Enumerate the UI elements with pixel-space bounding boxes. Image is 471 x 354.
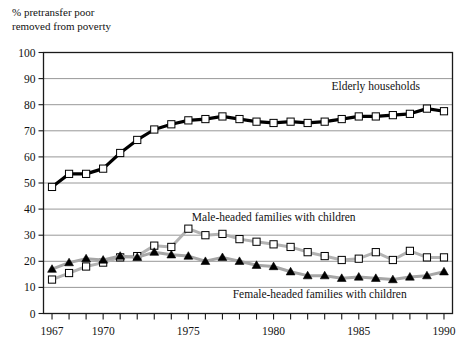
x-tick-label: 1975 (177, 325, 200, 337)
data-point-marker (219, 113, 226, 120)
data-point-marker (83, 170, 90, 177)
data-point-marker (202, 232, 209, 239)
y-tick-label: 10 (24, 281, 36, 293)
data-point-marker (338, 115, 345, 122)
data-point-marker (65, 269, 72, 276)
series-line (52, 229, 444, 280)
data-point-marker (372, 113, 379, 120)
data-point-marker (117, 149, 124, 156)
data-point-marker (270, 119, 277, 126)
data-point-marker (304, 249, 311, 256)
data-point-marker (321, 252, 328, 259)
data-point-marker (304, 119, 311, 126)
data-point-marker (355, 255, 362, 262)
series-annotation: Elderly households (332, 80, 421, 93)
y-tick-label: 50 (24, 177, 36, 189)
y-tick-label: 80 (24, 99, 36, 111)
y-tick-label: 100 (18, 47, 36, 59)
data-point-marker (253, 238, 260, 245)
data-point-marker (423, 105, 430, 112)
data-point-marker (321, 118, 328, 125)
y-tick-label: 20 (24, 255, 36, 267)
series-annotation: Female-headed families with children (233, 288, 407, 300)
data-point-marker (65, 170, 72, 177)
data-point-marker (219, 230, 226, 237)
data-point-marker (423, 254, 430, 261)
y-tick-label: 60 (24, 151, 36, 163)
y-tick-label: 30 (24, 229, 36, 241)
data-point-marker (48, 183, 55, 190)
series-line (52, 109, 444, 187)
data-point-marker (355, 113, 362, 120)
y-tick-label: 90 (24, 73, 36, 85)
data-point-marker (253, 118, 260, 125)
data-point-marker (168, 243, 175, 250)
data-point-marker (406, 110, 413, 117)
series-1 (48, 105, 447, 191)
x-tick-label: 1990 (432, 325, 455, 337)
x-tick-label: 1970 (92, 325, 115, 337)
series-annotation: Male-headed families with children (192, 211, 356, 223)
data-point-marker (287, 243, 294, 250)
data-point-marker (287, 118, 294, 125)
series-2 (48, 225, 447, 283)
data-point-marker (236, 236, 243, 243)
data-point-marker (185, 225, 192, 232)
data-point-marker (168, 121, 175, 128)
data-point-marker (185, 117, 192, 124)
chart-plot: 0102030405060708090100 19671970197519801… (0, 0, 471, 354)
data-point-marker (202, 115, 209, 122)
data-point-marker (406, 247, 413, 254)
x-tick-label: 1980 (262, 325, 285, 337)
data-point-marker (134, 136, 141, 143)
data-point-marker (389, 112, 396, 119)
data-point-marker (100, 165, 107, 172)
x-tick-label: 1985 (347, 325, 370, 337)
data-series-group (48, 105, 449, 283)
y-axis-ticks-group: 0102030405060708090100 (18, 47, 43, 320)
data-point-marker (440, 108, 447, 115)
y-tick-label: 40 (24, 203, 36, 215)
data-point-marker (236, 115, 243, 122)
y-tick-label: 0 (30, 308, 36, 320)
data-point-marker (440, 254, 447, 261)
y-tick-label: 70 (24, 125, 36, 137)
data-point-marker (338, 256, 345, 263)
x-tick-label: 1967 (41, 325, 64, 337)
series-3 (48, 248, 449, 283)
data-point-marker (389, 256, 396, 263)
data-point-marker (151, 126, 158, 133)
data-point-marker (270, 241, 277, 248)
data-point-marker (372, 249, 379, 256)
chart-figure: % pretransfer poor removed from poverty … (0, 0, 471, 354)
x-axis-ticks-group: 196719701975198019851990 (41, 314, 456, 337)
data-point-marker (48, 276, 55, 283)
data-point-marker (83, 263, 90, 270)
